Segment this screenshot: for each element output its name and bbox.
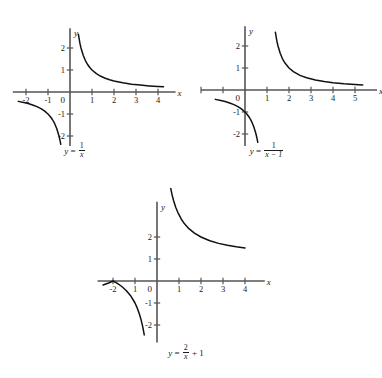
y-tick-label: -1	[233, 107, 240, 117]
x-tick-label: 1	[133, 284, 137, 294]
x-axis-label: x	[177, 88, 182, 98]
caption-3-fraction: 2 x	[183, 344, 189, 362]
x-tick-label: 1	[265, 93, 269, 103]
x-tick-label: -2	[109, 284, 116, 294]
y-axis-label: y	[160, 202, 165, 212]
caption-1-fraction: 1 x	[79, 142, 85, 160]
x-tick-label: 1	[90, 95, 94, 105]
caption-2-fraction: 1 x − 1	[264, 142, 283, 160]
figure-y-equals-1-over-x: -2-11234-2-1120xy y = 1 x	[0, 6, 190, 166]
graph-1-caption: y = 1 x	[0, 142, 150, 160]
curve-right-branch	[275, 32, 362, 85]
origin-label: 0	[148, 284, 153, 294]
caption-3-lhs: y	[168, 348, 172, 358]
figure-y-equals-2-over-x-plus-1: -211234-2-1120xy y = 2 x + 1	[96, 188, 296, 378]
origin-label: 0	[61, 95, 66, 105]
graph-2-caption: y = 1 x − 1	[192, 142, 342, 160]
y-axis-label: y	[73, 28, 78, 38]
x-tick-label: 3	[134, 95, 138, 105]
x-tick-label: 2	[199, 284, 203, 294]
y-tick-label: 2	[61, 43, 65, 53]
caption-2-equals: =	[256, 146, 261, 156]
x-tick-label: -1	[44, 95, 51, 105]
caption-3-tail: + 1	[192, 348, 204, 358]
caption-3-equals: =	[174, 348, 179, 358]
origin-label: 0	[236, 93, 241, 103]
caption-1-equals: =	[70, 146, 75, 156]
y-axis-label: y	[248, 26, 253, 36]
x-tick-label: 4	[243, 284, 248, 294]
x-tick-label: 5	[353, 93, 357, 103]
x-tick-label: 3	[221, 284, 225, 294]
caption-1-denominator: x	[79, 151, 85, 159]
x-tick-label: 1	[177, 284, 181, 294]
y-tick-label: 1	[61, 65, 65, 75]
x-tick-label: 4	[156, 95, 161, 105]
y-tick-label: -1	[145, 298, 152, 308]
curve-right-branch	[171, 188, 245, 248]
x-tick-label: 3	[309, 93, 313, 103]
y-tick-label: -1	[58, 109, 65, 119]
y-tick-label: 2	[148, 232, 152, 242]
figure-y-equals-1-over-x-minus-1: 12345-2-1120xy y = 1 x − 1	[192, 6, 382, 171]
x-tick-label: 2	[287, 93, 291, 103]
graph-1-plot: -2-11234-2-1120xy	[0, 6, 190, 146]
y-tick-label: 1	[148, 254, 152, 264]
x-axis-label: x	[266, 277, 271, 287]
y-tick-label: 2	[236, 41, 240, 51]
x-tick-label: 4	[331, 93, 336, 103]
x-axis-label: x	[378, 86, 382, 96]
graph-3-caption: y = 2 x + 1	[96, 344, 276, 362]
graph-2-plot: 12345-2-1120xy	[192, 6, 382, 146]
curve-left-branch	[18, 101, 60, 144]
caption-2-lhs: y	[250, 146, 254, 156]
y-tick-label: -2	[145, 320, 152, 330]
caption-1-lhs: y	[64, 146, 68, 156]
caption-2-denominator: x − 1	[264, 151, 283, 159]
curve-right-branch	[78, 34, 163, 87]
graph-3-plot: -211234-2-1120xy	[96, 188, 296, 348]
y-tick-label: 1	[236, 63, 240, 73]
y-tick-label: -2	[233, 129, 240, 139]
x-tick-label: 2	[112, 95, 116, 105]
caption-3-denominator: x	[183, 353, 189, 361]
